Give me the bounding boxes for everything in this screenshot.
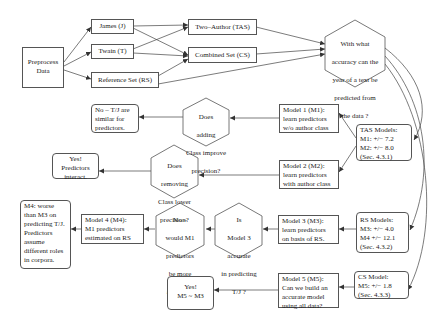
edge-preprocess-twain: [64, 52, 91, 66]
model1-box: Model 1 (M1): learn predictors w/o autho…: [279, 104, 339, 133]
edge-tas-m2: [339, 146, 356, 172]
m4-worse-line-2: than M3 on: [24, 211, 67, 220]
main-question-line-1: With what: [324, 40, 386, 49]
removing-line-3: Class lower: [150, 198, 199, 207]
tas-models-line-2: M1: +/− 7.2: [360, 135, 408, 144]
cs-model-line-3: (Sec. 4.3.3): [358, 291, 405, 300]
removing-line-1: Does: [150, 162, 199, 171]
reference-label: Reference Set (RS): [98, 76, 152, 84]
m4-worse-line-4: Predictors: [24, 229, 67, 238]
model4-line-1: Model 4 (M4):: [85, 216, 140, 225]
no-similar-line-3: predictors.: [95, 124, 135, 133]
rs-models-line-3: M4 +/− 12.1: [360, 234, 405, 243]
model3-box: Model 3 (M3): learn predictors on basis …: [278, 215, 339, 244]
q-model3-line-2: Model 3: [214, 234, 264, 243]
tas-models-line-4: (Sec. 4.3.1): [360, 153, 408, 162]
m4-worse-line-7: in corpora.: [24, 256, 67, 265]
edge-james-cs: [133, 28, 188, 55]
m4-worse-box: M4: worse than M3 on predicting T/J. Pre…: [20, 200, 71, 269]
yes-m5-line-1: Yes!: [171, 283, 210, 292]
model5-line-1: Model 5 (M5):: [282, 275, 335, 284]
cs-model-line-2: M5: +/− 1.8: [358, 282, 405, 291]
edge-james-tas: [133, 25, 188, 26]
combined-set-box: Combined Set (CS): [188, 47, 257, 63]
edge-reference-cs: [158, 59, 188, 76]
model1-line-1: Model 1 (M1):: [283, 106, 335, 115]
two-author-box: Two–Author (TAS): [188, 19, 257, 35]
model4-line-3: estimated on RS: [85, 234, 140, 243]
cs-model-line-1: CS Model:: [358, 273, 405, 282]
model4-line-2: M1 predictors: [85, 225, 140, 234]
q-m1-line-1: No –: [155, 216, 205, 225]
no-similar-line-1: No – T/J are: [95, 106, 135, 115]
model3-line-3: on basis of RS.: [282, 235, 335, 244]
two-author-label: Two–Author (TAS): [195, 23, 250, 31]
yes-m5-line-2: M5 ~ M3: [171, 292, 210, 301]
no-similar-box: No – T/J are similar for predictors.: [91, 104, 139, 133]
preprocess-data-box: Preprocess Data: [22, 47, 64, 88]
model1-line-3: w/o author class: [283, 124, 335, 133]
edge-tas-question: [256, 27, 325, 44]
q-m1-line-2: would M1: [155, 234, 205, 243]
model3-accurate-text: Is Model 3 accurate in predicting T/J ?: [214, 207, 264, 306]
tas-models-line-1: TAS Models:: [360, 126, 408, 135]
model5-box: Model 5 (M5): Can we build an accurate m…: [278, 273, 339, 308]
edge-cs-question: [256, 49, 325, 54]
q-model3-line-1: Is: [214, 216, 264, 225]
m4-worse-line-6: different roles: [24, 247, 67, 256]
adding-line-2: adding: [182, 131, 230, 140]
james-box: James (J): [91, 19, 134, 34]
m4-worse-line-3: predicting T/J.: [24, 220, 67, 229]
model3-line-2: learn predictors: [282, 226, 335, 235]
combined-label: Combined Set (CS): [195, 51, 250, 59]
model4-box: Model 4 (M4): M1 predictors estimated on…: [81, 214, 144, 244]
edge-preprocess-reference: [64, 70, 91, 79]
rs-models-line-4: (Sec. 4.3.2): [360, 243, 405, 252]
model2-line-3: with author class: [283, 180, 335, 189]
cs-model-box: CS Model: M5: +/− 1.8 (Sec. 4.3.3): [354, 271, 409, 299]
rs-models-line-2: M3: +/− 4.0: [360, 225, 405, 234]
preprocess-line-2: Data: [26, 67, 60, 76]
q-model3-line-3: accurate: [214, 252, 264, 261]
q-model3-line-5: T/J ?: [214, 288, 264, 297]
reference-set-box: Reference Set (RS): [91, 72, 159, 88]
main-question-line-2: accuracy can the: [324, 58, 386, 67]
no-similar-line-2: similar for: [95, 115, 135, 124]
edge-preprocess-james: [64, 27, 91, 62]
model5-line-2: Can we build an: [282, 284, 335, 293]
q-m1-line-3: predictors: [155, 252, 205, 261]
main-question-line-4: predicted from: [324, 94, 386, 103]
main-question-line-3: year of a text be: [324, 76, 386, 85]
yes-interact-line-3: interact.: [56, 173, 95, 182]
yes-interact-line-2: Predictors: [56, 164, 95, 173]
model2-line-1: Model 2 (M2):: [283, 162, 335, 171]
twain-label: Twain (T): [98, 47, 126, 55]
removing-line-2: removing: [150, 180, 199, 189]
m4-worse-line-1: M4: worse: [24, 202, 67, 211]
model5-line-3: accurate model: [282, 293, 335, 302]
model2-box: Model 2 (M2): learn predictors with auth…: [279, 160, 339, 189]
preprocess-line-1: Preprocess: [26, 58, 60, 67]
model3-line-1: Model 3 (M3):: [282, 217, 335, 226]
tas-models-box: TAS Models: M1: +/− 7.2 M2: +/− 8.0 (Sec…: [356, 124, 412, 161]
model1-line-2: learn predictors: [283, 115, 335, 124]
rs-models-box: RS Models: M3: +/− 4.0 M4 +/− 12.1 (Sec.…: [356, 212, 409, 253]
edge-twain-cs: [133, 53, 188, 56]
james-label: James (J): [99, 22, 125, 30]
twain-box: Twain (T): [91, 44, 134, 59]
yes-m5-box: Yes! M5 ~ M3: [167, 276, 214, 310]
model5-line-4: using all data?: [282, 302, 335, 311]
yes-interact-line-1: Yes!: [56, 155, 95, 164]
edge-twain-tas: [133, 27, 188, 49]
yes-interact-box: Yes! Predictors interact.: [52, 153, 99, 179]
m4-worse-line-5: assume: [24, 238, 67, 247]
model2-line-2: learn predictors: [283, 171, 335, 180]
adding-line-1: Does: [182, 113, 230, 122]
tas-models-line-3: M2: +/− 8.0: [360, 144, 408, 153]
q-model3-line-4: in predicting: [214, 270, 264, 279]
rs-models-line-1: RS Models:: [360, 216, 405, 225]
